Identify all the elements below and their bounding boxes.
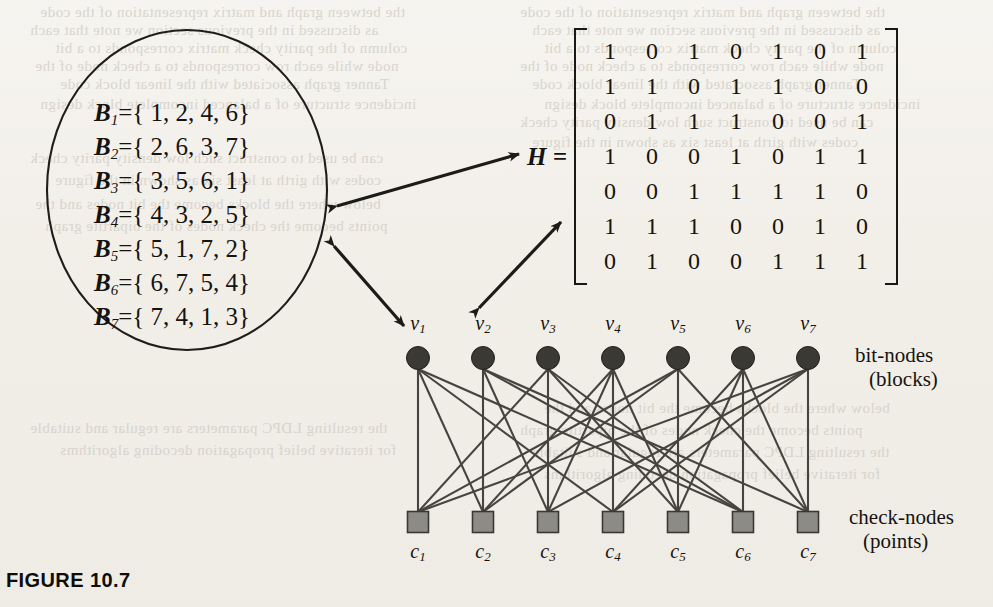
tanner-graph-edges <box>418 369 808 512</box>
bit-node[interactable] <box>472 347 495 370</box>
check-node-label: c5 <box>670 540 685 565</box>
matrix-cell: 0 <box>757 139 799 174</box>
block-symbol: B <box>94 133 111 160</box>
bit-node-symbol: v <box>735 312 744 334</box>
bit-node-symbol: v <box>540 312 549 334</box>
matrix-cell: 1 <box>673 34 715 69</box>
matrix-cell: 1 <box>715 69 757 104</box>
bit-node[interactable] <box>732 347 755 370</box>
figure-page: the between graph and matrix representat… <box>0 0 993 607</box>
matrix-cell: 0 <box>673 244 715 279</box>
block-elements: ={ 5, 1, 7, 2} <box>118 235 250 262</box>
matrix-cell: 0 <box>673 69 715 104</box>
check-node-symbol: c <box>475 540 484 562</box>
block-definition-row: B3={ 3, 5, 6, 1} <box>94 164 250 198</box>
matrix-label: H = <box>527 143 567 171</box>
matrix-cell: 1 <box>757 244 799 279</box>
block-elements: ={ 6, 7, 5, 4} <box>118 269 250 296</box>
check-node-index: 6 <box>744 549 751 564</box>
check-node-label: c7 <box>800 540 815 565</box>
matrix-cell: 0 <box>715 34 757 69</box>
tanner-edge <box>418 369 613 512</box>
arrow-blocks-to-graph <box>334 246 404 326</box>
bit-node[interactable] <box>537 347 560 370</box>
matrix-row: 1110010 <box>589 209 883 244</box>
parity-check-matrix: H = 101010111011000111001100101100111101… <box>527 28 898 285</box>
block-symbol: B <box>94 99 111 126</box>
bit-node[interactable] <box>602 347 625 370</box>
bit-node-label: v6 <box>735 312 750 337</box>
block-symbol: B <box>94 303 111 330</box>
matrix-cell: 1 <box>841 34 883 69</box>
bit-node-index: 4 <box>614 321 621 336</box>
tanner-edge <box>678 369 743 512</box>
bit-node-index: 5 <box>679 321 686 336</box>
bit-node-label: v3 <box>540 312 555 337</box>
check-nodes-legend-line2: (points) <box>849 529 954 553</box>
matrix-cell: 1 <box>631 69 673 104</box>
bit-node-index: 1 <box>419 321 426 336</box>
matrix-cell: 1 <box>673 104 715 139</box>
matrix-cell: 0 <box>841 209 883 244</box>
check-node-index: 3 <box>549 549 556 564</box>
tanner-edge <box>418 369 743 512</box>
matrix-row: 0011110 <box>589 174 883 209</box>
matrix-cell: 1 <box>631 104 673 139</box>
check-node[interactable] <box>668 512 689 533</box>
bit-node-symbol: v <box>800 312 809 334</box>
bit-node-index: 7 <box>809 321 816 336</box>
check-node[interactable] <box>798 512 819 533</box>
bit-node[interactable] <box>797 347 820 370</box>
block-definition-row: B6={ 6, 7, 5, 4} <box>94 266 250 300</box>
bit-node-label: v4 <box>605 312 620 337</box>
check-node[interactable] <box>538 512 559 533</box>
bit-node[interactable] <box>407 347 430 370</box>
block-definition-row: B4={ 4, 3, 2, 5} <box>94 198 250 232</box>
check-node-label: c6 <box>735 540 750 565</box>
matrix-brackets: 1010101110110001110011001011001111011100… <box>574 28 898 285</box>
matrix-cell: 1 <box>799 244 841 279</box>
matrix-cell: 1 <box>589 69 631 104</box>
bit-node-index: 2 <box>484 321 491 336</box>
matrix-cell: 0 <box>799 34 841 69</box>
matrix-row: 1010101 <box>589 34 883 69</box>
check-node[interactable] <box>603 512 624 533</box>
bit-node[interactable] <box>667 347 690 370</box>
block-definition-row: B7={ 7, 4, 1, 3} <box>94 300 250 334</box>
bit-node-label: v1 <box>410 312 425 337</box>
bit-node-label: v2 <box>475 312 490 337</box>
check-node-symbol: c <box>540 540 549 562</box>
check-node-label: c3 <box>540 540 555 565</box>
matrix-cell: 0 <box>589 244 631 279</box>
matrix-cell: 1 <box>631 244 673 279</box>
matrix-cell: 0 <box>799 69 841 104</box>
matrix-cell: 1 <box>673 174 715 209</box>
arrow-blocks-to-matrix <box>337 154 519 206</box>
bit-node-index: 6 <box>744 321 751 336</box>
matrix-cell: 1 <box>757 34 799 69</box>
check-node-symbol: c <box>800 540 809 562</box>
bit-nodes-legend-line2: (blocks) <box>855 367 938 391</box>
check-nodes-legend-line1: check-nodes <box>849 505 954 529</box>
check-node[interactable] <box>733 512 754 533</box>
block-symbol: B <box>94 269 111 296</box>
matrix-cell: 0 <box>757 104 799 139</box>
matrix-cell: 1 <box>715 174 757 209</box>
block-elements: ={ 1, 2, 4, 6} <box>118 99 250 126</box>
matrix-cell: 1 <box>799 174 841 209</box>
matrix-cell: 0 <box>631 174 673 209</box>
check-node[interactable] <box>473 512 494 533</box>
matrix-cell: 0 <box>715 209 757 244</box>
matrix-cell: 1 <box>589 139 631 174</box>
check-node-index: 1 <box>419 549 426 564</box>
check-node-index: 5 <box>679 549 686 564</box>
tanner-edge <box>743 369 808 512</box>
block-definition-row: B5={ 5, 1, 7, 2} <box>94 232 250 266</box>
matrix-cell: 1 <box>715 104 757 139</box>
check-node-label: c2 <box>475 540 490 565</box>
check-node[interactable] <box>408 512 429 533</box>
matrix-cell: 0 <box>631 34 673 69</box>
block-elements: ={ 2, 6, 3, 7} <box>118 133 250 160</box>
matrix-cell: 1 <box>841 244 883 279</box>
check-node-index: 4 <box>614 549 621 564</box>
